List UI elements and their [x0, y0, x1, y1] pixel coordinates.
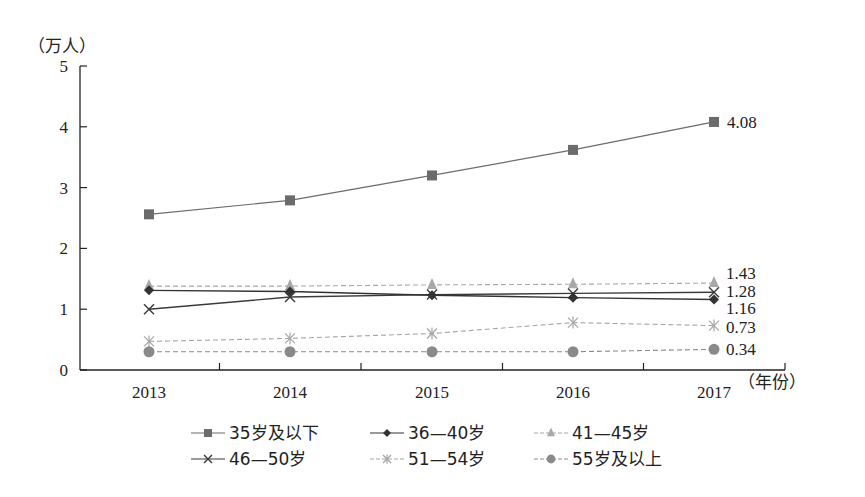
x-tick-label: 2015 [415, 383, 449, 402]
x-tick-label: 2017 [697, 383, 732, 402]
series-6 [144, 344, 720, 357]
legend-item: 51—54岁 [370, 449, 485, 469]
triangle-marker-icon [568, 277, 578, 288]
legend: 35岁及以下36—40岁41—45岁46—50岁51—54岁55岁及以上 [191, 423, 662, 469]
series-3 [144, 276, 719, 290]
triangle-marker-icon [709, 276, 719, 287]
circle-marker-icon [709, 344, 720, 355]
square-marker-icon [204, 429, 212, 437]
square-marker-icon [709, 117, 719, 127]
diamond-marker-icon [568, 293, 578, 303]
series-group [144, 117, 720, 357]
square-marker-icon [144, 209, 154, 219]
end-value-label: 1.16 [726, 299, 756, 318]
square-marker-icon [568, 145, 578, 155]
circle-marker-icon [427, 346, 438, 357]
series-1 [144, 117, 719, 219]
end-value-label: 0.34 [726, 340, 756, 359]
legend-label: 41—45岁 [572, 423, 649, 443]
x-axis-ticks: 20132014201520162017 [132, 363, 785, 402]
circle-marker-icon [144, 346, 155, 357]
end-value-label: 1.43 [726, 264, 756, 283]
legend-item: 36—40岁 [370, 423, 485, 443]
circle-marker-icon [568, 346, 579, 357]
y-axis-ticks: 012345 [60, 57, 88, 380]
x-tick-label: 2016 [556, 383, 590, 402]
legend-item: 41—45岁 [534, 423, 649, 443]
asterisk-marker-icon [427, 328, 437, 340]
line-chart: （万人） 012345 20132014201520162017 （年份） 4.… [0, 0, 865, 497]
series-5 [144, 317, 719, 348]
y-tick-label: 0 [60, 361, 69, 380]
y-tick-label: 3 [60, 179, 69, 198]
end-value-label: 4.08 [727, 113, 757, 132]
end-value-label: 1.28 [726, 282, 756, 301]
legend-item: 46—50岁 [191, 449, 306, 469]
circle-marker-icon [547, 455, 556, 464]
diamond-marker-icon [383, 429, 391, 437]
x-tick-label: 2014 [273, 383, 308, 402]
series-line [149, 122, 714, 214]
y-tick-label: 2 [60, 239, 69, 258]
y-tick-label: 4 [60, 118, 69, 137]
circle-marker-icon [285, 346, 296, 357]
legend-label: 55岁及以上 [572, 449, 662, 469]
x-tick-label: 2013 [132, 383, 166, 402]
end-value-label: 0.73 [726, 318, 756, 337]
square-marker-icon [427, 170, 437, 180]
legend-label: 51—54岁 [408, 449, 485, 469]
legend-item: 35岁及以下 [191, 423, 319, 443]
square-marker-icon [285, 195, 295, 205]
end-value-labels: 4.081.161.431.280.730.34 [726, 113, 757, 359]
x-axis-unit-label: （年份） [738, 372, 806, 392]
y-tick-label: 1 [60, 300, 69, 319]
y-axis-unit-label: （万人） [28, 36, 96, 56]
triangle-marker-icon [427, 278, 437, 289]
legend-label: 36—40岁 [408, 423, 485, 443]
legend-label: 46—50岁 [229, 449, 306, 469]
legend-label: 35岁及以下 [229, 423, 319, 443]
triangle-marker-icon [547, 427, 555, 436]
legend-item: 55岁及以上 [534, 449, 662, 469]
y-tick-label: 5 [60, 57, 69, 76]
